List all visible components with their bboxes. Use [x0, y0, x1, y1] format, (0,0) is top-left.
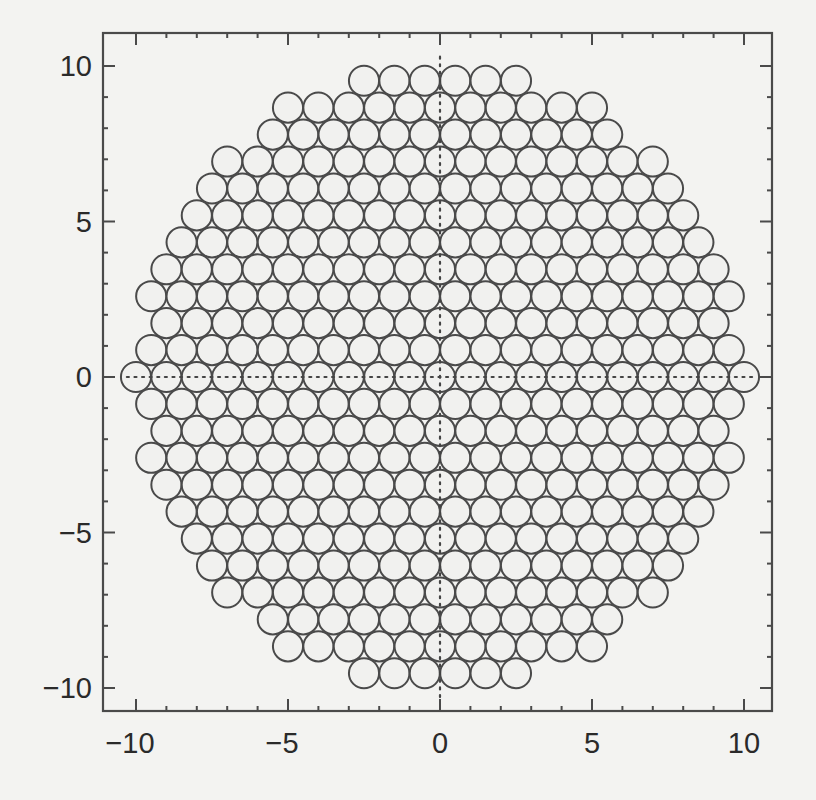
- circle: [395, 200, 425, 230]
- circle: [501, 443, 531, 473]
- circle: [273, 93, 303, 123]
- circle: [471, 227, 501, 257]
- circle: [227, 227, 257, 257]
- circle: [516, 577, 546, 607]
- circle: [486, 308, 516, 338]
- circle: [303, 631, 333, 661]
- circle: [607, 470, 637, 500]
- circle: [349, 281, 379, 311]
- circle: [167, 335, 197, 365]
- circle: [638, 200, 668, 230]
- circle: [182, 308, 212, 338]
- circle: [212, 470, 242, 500]
- circle: [136, 335, 166, 365]
- circle: [577, 470, 607, 500]
- circle: [547, 200, 577, 230]
- circle: [486, 577, 516, 607]
- circle: [471, 120, 501, 150]
- circle: [562, 227, 592, 257]
- circle: [364, 631, 394, 661]
- circle: [501, 389, 531, 419]
- circle: [714, 281, 744, 311]
- circle: [607, 308, 637, 338]
- circle: [531, 443, 561, 473]
- circle: [531, 335, 561, 365]
- circle: [197, 335, 227, 365]
- circle: [212, 577, 242, 607]
- circle: [349, 227, 379, 257]
- circle: [562, 389, 592, 419]
- circle: [531, 281, 561, 311]
- circle: [364, 524, 394, 554]
- circle: [471, 281, 501, 311]
- circle: [440, 658, 470, 688]
- circle: [668, 470, 698, 500]
- circle: [410, 443, 440, 473]
- y-tick-label: 5: [76, 206, 92, 238]
- circle: [334, 470, 364, 500]
- circle: [379, 550, 409, 580]
- circle: [668, 254, 698, 284]
- circle: [243, 470, 273, 500]
- circle: [212, 146, 242, 176]
- x-tick-label: 0: [432, 727, 448, 759]
- circle: [319, 604, 349, 634]
- circle: [136, 443, 166, 473]
- circle: [303, 308, 333, 338]
- circle: [440, 173, 470, 203]
- circle: [334, 200, 364, 230]
- circle: [440, 604, 470, 634]
- circle: [364, 146, 394, 176]
- circle: [349, 389, 379, 419]
- circle: [455, 524, 485, 554]
- x-tick-label: −10: [105, 727, 154, 759]
- circle: [623, 173, 653, 203]
- circle: [273, 524, 303, 554]
- circle: [410, 497, 440, 527]
- circle: [243, 524, 273, 554]
- circle: [471, 443, 501, 473]
- circle: [668, 416, 698, 446]
- circle: [197, 443, 227, 473]
- circle: [562, 120, 592, 150]
- circle: [349, 173, 379, 203]
- circle: [334, 308, 364, 338]
- circle: [562, 335, 592, 365]
- circle: [562, 281, 592, 311]
- circle: [440, 120, 470, 150]
- circle: [212, 416, 242, 446]
- circle: [562, 173, 592, 203]
- circle: [167, 497, 197, 527]
- circle: [182, 200, 212, 230]
- x-tick-label: 5: [584, 727, 600, 759]
- circle: [303, 200, 333, 230]
- circle: [197, 550, 227, 580]
- circle: [319, 173, 349, 203]
- circle: [623, 497, 653, 527]
- circle: [288, 173, 318, 203]
- circle: [623, 389, 653, 419]
- circle: [516, 308, 546, 338]
- circle: [167, 443, 197, 473]
- circle: [319, 389, 349, 419]
- circle: [577, 524, 607, 554]
- circle: [516, 470, 546, 500]
- circle: [653, 497, 683, 527]
- circle: [531, 173, 561, 203]
- y-tick-label: 10: [60, 50, 92, 82]
- circle: [364, 308, 394, 338]
- circle: [547, 577, 577, 607]
- circle: [699, 470, 729, 500]
- circle: [653, 227, 683, 257]
- circle: [531, 120, 561, 150]
- circle: [562, 497, 592, 527]
- circle: [623, 550, 653, 580]
- circle: [638, 577, 668, 607]
- circle: [562, 550, 592, 580]
- circle: [714, 335, 744, 365]
- circle: [471, 66, 501, 96]
- circle: [379, 497, 409, 527]
- circle: [607, 577, 637, 607]
- circle: [334, 524, 364, 554]
- circle: [334, 631, 364, 661]
